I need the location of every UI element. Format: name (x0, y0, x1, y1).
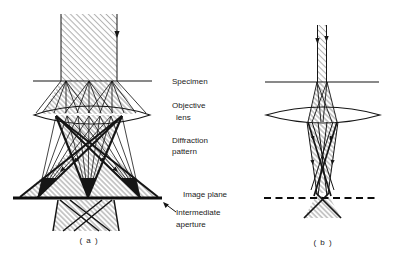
label-objective-line2: lens (176, 113, 191, 122)
label-intermediate-line2: aperture (176, 220, 206, 229)
label-intermediate-line1: Intermediate (176, 208, 221, 217)
label-specimen: Specimen (172, 77, 208, 86)
figure-canvas: ( a ) Specimen Objective lens Diffractio… (0, 0, 398, 260)
label-objective-line1: Objective (172, 101, 206, 110)
incident-beam-a (61, 14, 120, 81)
panel-a: ( a ) (13, 14, 162, 245)
label-image-plane: Image plane (183, 190, 228, 199)
specimen-scatter-rays-b (307, 82, 338, 122)
aperture-pointer-arrow-icon (161, 200, 176, 212)
caption-b: ( b ) (313, 238, 332, 247)
aperture-exit-beam-a (53, 200, 119, 231)
ray-diagram-figure: ( a ) Specimen Objective lens Diffractio… (0, 0, 398, 260)
caption-a: ( a ) (79, 236, 98, 245)
panel-b: ( b ) (264, 25, 380, 247)
label-column: Specimen Objective lens Diffraction patt… (161, 77, 227, 229)
label-diffraction-line1: Diffraction (172, 136, 208, 145)
imaging-ray-fan-a (20, 115, 158, 197)
label-diffraction-line2: pattern (172, 147, 197, 156)
incident-beam-b (315, 25, 328, 82)
imaging-ray-net-b (304, 122, 341, 218)
